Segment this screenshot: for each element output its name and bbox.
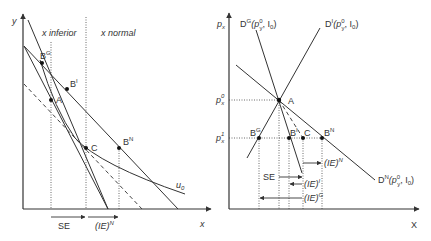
rotated-budget-line <box>24 46 178 209</box>
point-c-label: C <box>304 128 311 138</box>
point-c <box>84 146 88 150</box>
point-bn-label: BN <box>123 136 133 147</box>
se-label: SE <box>263 172 275 182</box>
point-bg-label: BG <box>40 50 51 61</box>
quantity-axis-label: X <box>411 220 417 230</box>
left-panel: y x x inferior x normal u0 BG BI A C BN … <box>11 14 211 231</box>
point-a-label: A <box>56 95 62 105</box>
point-a <box>277 98 281 102</box>
price-label-p1: p1x <box>215 131 225 144</box>
curve-label-dg: DG(p0y, I0) <box>240 18 276 31</box>
region-label-inferior: x inferior <box>41 28 78 38</box>
y-axis-label: y <box>11 16 17 26</box>
diagram-canvas: y x x inferior x normal u0 BG BI A C BN … <box>0 0 431 241</box>
point-bg <box>257 136 261 140</box>
point-c-label: C <box>91 143 98 153</box>
curve-label-u0: u0 <box>176 180 185 191</box>
se-label: SE <box>58 221 70 231</box>
right-panel: px X p0x p1x DG(p0y, I0) DI(p0y, I0) DN(… <box>215 13 419 230</box>
point-bi-label: BI <box>290 127 298 138</box>
point-bn-label: BN <box>324 127 334 138</box>
region-label-normal: x normal <box>100 28 137 38</box>
curve-label-di: DI(p0y, I0) <box>325 18 358 31</box>
x-axis-label: x <box>199 219 205 229</box>
point-bi <box>65 87 69 91</box>
point-bi-label: BI <box>70 78 78 89</box>
ie-normal-label: (IE)N <box>324 157 344 168</box>
point-bg <box>40 61 44 65</box>
ie-normal-label: (IE)N <box>95 220 115 231</box>
curve-label-dn: DN(p0y, I0) <box>378 174 414 187</box>
steep-budget-line <box>28 20 108 209</box>
initial-budget-line <box>24 46 108 209</box>
price-label-p0: p0x <box>215 93 225 106</box>
ie-giffen-label: (IE)G <box>304 192 324 203</box>
point-a <box>49 98 53 102</box>
ie-inferior-label: (IE)I <box>304 178 321 189</box>
indifference-curve-u0 <box>40 60 185 194</box>
px-axis-label: px <box>216 19 226 30</box>
point-a-label: A <box>288 96 294 106</box>
point-bn <box>117 146 121 150</box>
